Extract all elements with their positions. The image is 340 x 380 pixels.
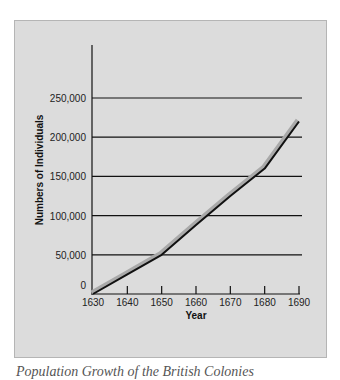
y-tick-label: 200,000 bbox=[50, 132, 87, 143]
x-tick-label: 1640 bbox=[116, 297, 139, 308]
x-tick-labels: 1630164016501660167016801690 bbox=[82, 286, 311, 308]
x-tick-label: 1660 bbox=[185, 297, 208, 308]
x-tick-label: 1680 bbox=[254, 297, 277, 308]
y-tick-label: 50,000 bbox=[55, 250, 86, 261]
chart-caption: Population Growth of the British Colonie… bbox=[16, 364, 254, 380]
x-axis-label: Year bbox=[185, 310, 206, 321]
y-tick-label: 150,000 bbox=[50, 171, 87, 182]
x-tick-label: 1650 bbox=[151, 297, 174, 308]
x-tick-label: 1690 bbox=[288, 297, 311, 308]
x-tick-label: 1670 bbox=[219, 297, 242, 308]
y-tick-label: 250,000 bbox=[50, 93, 87, 104]
y-axis-label: Numbers of Individuals bbox=[34, 114, 45, 225]
gridlines bbox=[92, 98, 302, 255]
data-line bbox=[93, 122, 299, 294]
y-tick-label: 100,000 bbox=[50, 211, 87, 222]
x-tick-label: 1630 bbox=[82, 297, 105, 308]
y-tick-label: 0 bbox=[80, 280, 86, 291]
data-line-shadow bbox=[92, 120, 298, 292]
y-tick-labels: 050,000100,000150,000200,000250,000 bbox=[50, 93, 87, 291]
